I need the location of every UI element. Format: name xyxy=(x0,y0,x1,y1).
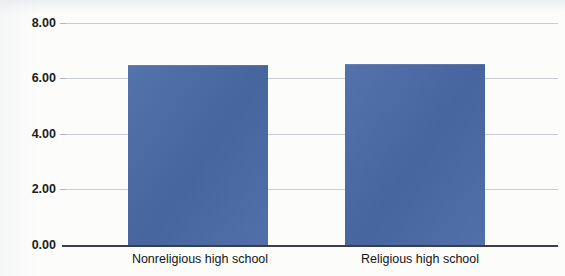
bar-chart: 8.00 6.00 4.00 2.00 0.00 Nonreligious hi… xyxy=(0,0,565,276)
y-axis-tick-label: 0.00 xyxy=(4,239,56,252)
bar-religious-high-school[interactable] xyxy=(345,64,485,245)
y-axis-labels: 8.00 6.00 4.00 2.00 0.00 xyxy=(0,0,56,276)
y-axis-tick-label: 6.00 xyxy=(4,72,56,85)
chart-title-cropped xyxy=(0,0,565,5)
y-axis-tick-label: 4.00 xyxy=(4,128,56,141)
y-axis-tick-label: 8.00 xyxy=(4,17,56,30)
y-axis-tick-label: 2.00 xyxy=(4,183,56,196)
bars-layer xyxy=(66,23,558,245)
x-axis-label-nonreligious-high-school: Nonreligious high school xyxy=(110,252,290,266)
bar-nonreligious-high-school[interactable] xyxy=(128,65,268,245)
plot-area xyxy=(66,23,558,245)
x-axis-label-religious-high-school: Religious high school xyxy=(330,252,510,266)
x-axis-line xyxy=(62,245,558,247)
